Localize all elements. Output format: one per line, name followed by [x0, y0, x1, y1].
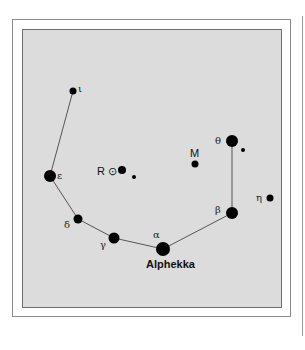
- line-epsilon-delta: [50, 176, 78, 219]
- star-R-companion: [132, 175, 136, 179]
- star-theta-companion: [241, 148, 245, 152]
- label-theta: θ: [215, 135, 221, 146]
- label-eta: η: [256, 192, 262, 203]
- label-R: R ⊙: [97, 165, 117, 177]
- star-R: [118, 166, 126, 174]
- label-alpha: α: [153, 229, 160, 240]
- label-alphekka: Alphekka: [146, 258, 196, 270]
- label-delta: δ: [64, 219, 70, 230]
- constellation-diagram: ι ε δ γ α Alphekka β θ η M R ⊙: [0, 0, 305, 350]
- star-eta: [267, 195, 274, 202]
- line-delta-gamma: [78, 219, 114, 238]
- line-iota-epsilon: [50, 91, 73, 176]
- star-theta: [226, 135, 238, 147]
- label-M: M: [190, 147, 199, 159]
- label-iota: ι: [78, 83, 82, 94]
- star-beta: [226, 207, 238, 219]
- constellation-lines: [50, 91, 232, 249]
- label-gamma: γ: [100, 239, 106, 250]
- star-alpha: [156, 242, 170, 256]
- star-iota: [70, 88, 77, 95]
- star-epsilon: [44, 170, 56, 182]
- label-epsilon: ε: [57, 170, 62, 181]
- star-gamma: [109, 233, 120, 244]
- star-delta: [74, 215, 83, 224]
- label-beta: β: [215, 204, 221, 215]
- star-M: [192, 161, 199, 168]
- line-alpha-beta: [163, 213, 232, 249]
